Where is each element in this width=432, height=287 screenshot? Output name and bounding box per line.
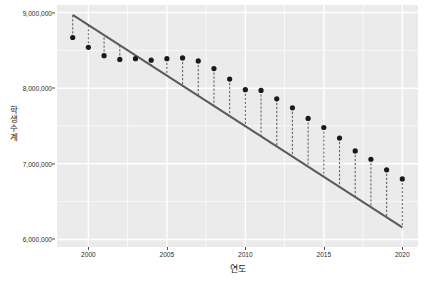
x-axis-tick-mark (88, 247, 89, 250)
plot-panel (57, 5, 418, 247)
y-axis-tick-mark (52, 163, 55, 164)
y-axis-tick-label: 8,000,000 (6, 85, 52, 92)
regression-line (73, 15, 403, 228)
y-axis-tick-mark (52, 12, 55, 13)
x-axis-tick-mark (402, 247, 403, 250)
y-axis-tick-label: 9,000,000 (6, 9, 52, 16)
x-axis-title: 연도 (57, 262, 418, 275)
x-axis-tick-label: 2005 (147, 251, 187, 258)
x-axis-tick-label: 2010 (225, 251, 265, 258)
x-axis-tick-label: 2015 (304, 251, 344, 258)
y-axis-tick-label: 6,000,000 (6, 236, 52, 243)
gridlines-minor (57, 5, 418, 247)
y-axis-tick-labels: 6,000,0007,000,0008,000,0009,000,000 (4, 0, 52, 287)
x-axis-tick-mark (324, 247, 325, 250)
x-axis-tick-mark (167, 247, 168, 250)
y-axis-tick-mark (52, 88, 55, 89)
y-axis-tick-label: 7,000,000 (6, 160, 52, 167)
x-axis-tick-label: 2020 (382, 251, 422, 258)
x-axis-tick-label: 2000 (68, 251, 108, 258)
y-axis-tick-mark (52, 239, 55, 240)
chart-container: 학생수계 6,000,0007,000,0008,000,0009,000,00… (0, 0, 432, 287)
plot-svg (57, 5, 418, 247)
x-axis-tick-mark (245, 247, 246, 250)
